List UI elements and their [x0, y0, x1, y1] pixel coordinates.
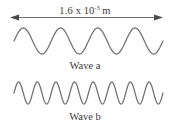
- wave-b-curve: [14, 82, 163, 104]
- dimension-value: 1.6: [59, 5, 73, 16]
- dimension-label: 1.6 x 10-3 m: [0, 6, 170, 17]
- dimension-base: 10: [84, 5, 95, 16]
- wave-a-label: Wave a: [0, 61, 170, 72]
- wave-comparison-figure: 1.6 x 10-3 m Wave a Wave b: [0, 0, 170, 131]
- dimension-times-symbol: x: [76, 5, 81, 16]
- wave-b-label: Wave b: [0, 112, 170, 123]
- wave-a-curve: [14, 28, 163, 54]
- dimension-exponent: -3: [94, 4, 100, 11]
- dimension-unit: m: [102, 5, 110, 16]
